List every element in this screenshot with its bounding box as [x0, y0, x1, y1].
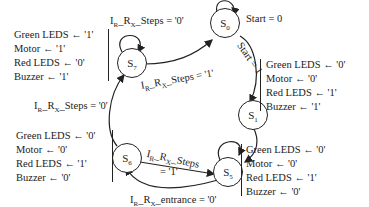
outputs-s1: Green LEDS ← '0' Motor ← '0' Red LEDS ← … [266, 58, 345, 114]
divider [112, 130, 113, 182]
output-buzzer: Buzzer ← '0' [16, 171, 95, 185]
output-buzzer: Buzzer ← '1' [14, 70, 93, 84]
label-s7-self: IR_RX_Steps = '0' [110, 15, 184, 31]
output-buzzer: Buzzer ← '0' [246, 185, 325, 199]
label-s6-to-s5-value: = '1' [160, 166, 178, 178]
output-red-leds: Red LEDS ← '1' [266, 86, 345, 100]
output-motor: Motor ← '0' [16, 143, 95, 157]
divider [108, 29, 109, 81]
state-diagram: S0 S1 S5 S6 S7 Start = 0 Start = 1 IR_RX… [0, 0, 369, 207]
label-s6-to-s7: IR_RX_Steps = '0' [34, 100, 108, 116]
output-red-leds: Red LEDS ← '1' [246, 171, 325, 185]
state-s0: S0 [210, 8, 240, 38]
output-motor: Motor ← '0' [266, 72, 345, 86]
outputs-s7: Green LEDS ← '1' Motor ← '1' Red LEDS ← … [14, 28, 93, 84]
divider [241, 144, 242, 196]
arrow-s7-to-s0 [144, 40, 212, 64]
output-green-leds: Green LEDS ← '0' [246, 143, 325, 157]
label-s5-to-s6: IR_RX_entrance = '0' [130, 194, 217, 207]
outputs-s5: Green LEDS ← '0' Motor ← '0' Red LEDS ← … [246, 143, 325, 199]
label-s0-self: Start = 0 [246, 13, 282, 25]
divider [260, 59, 261, 111]
state-s5: S5 [213, 157, 243, 187]
output-green-leds: Green LEDS ← '1' [14, 28, 93, 42]
state-s6: S6 [112, 143, 142, 173]
output-motor: Motor ← '0' [246, 157, 325, 171]
output-green-leds: Green LEDS ← '0' [266, 58, 345, 72]
output-green-leds: Green LEDS ← '0' [16, 129, 95, 143]
output-motor: Motor ← '1' [14, 42, 93, 56]
outputs-s6: Green LEDS ← '0' Motor ← '0' Red LEDS ← … [16, 129, 95, 185]
output-red-leds: Red LEDS ← '1' [16, 157, 95, 171]
output-buzzer: Buzzer ← '1' [266, 100, 345, 114]
output-red-leds: Red LEDS ← '0' [14, 56, 93, 70]
state-s7: S7 [117, 48, 147, 78]
state-s1: S1 [238, 100, 268, 130]
